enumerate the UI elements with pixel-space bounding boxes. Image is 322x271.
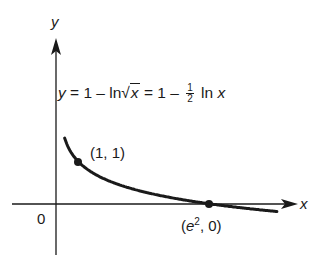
fraction-one-half: 12 [186, 83, 194, 104]
equation-lhs: y [58, 84, 66, 101]
fraction-denominator: 2 [186, 94, 194, 104]
x-axis-label: x [300, 196, 308, 211]
equation-var: x [217, 84, 225, 101]
radicand: x [130, 83, 140, 101]
label-close: , 0) [200, 217, 222, 234]
plot-area [0, 0, 322, 271]
equation-part-1: = 1 – ln [66, 84, 122, 101]
origin-label: 0 [37, 211, 45, 226]
point-label-e2-0: (e2, 0) [181, 217, 222, 233]
point-1-1 [74, 158, 82, 166]
equation-label: y = 1 – ln√x = 1 – 12 ln x [58, 83, 225, 104]
point-e2-0 [205, 200, 213, 208]
sqrt-symbol: √x [121, 85, 139, 101]
y-axis-label: y [51, 14, 59, 29]
equation-part-2: = 1 – [140, 84, 184, 101]
equation-part-3: ln [197, 84, 218, 101]
point-label-1-1: (1, 1) [90, 145, 125, 160]
